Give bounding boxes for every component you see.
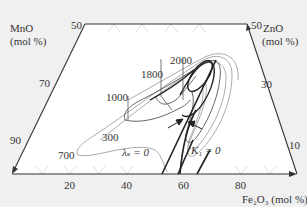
mno-axis-unit: (mol %) [10,35,47,48]
contour-label-2000: 2000 [170,54,193,66]
mno-tick-50: 50 [71,19,83,31]
zno-tick-30: 30 [261,78,273,90]
fe2o3-tick-60: 60 [178,179,190,191]
fe2o3-axis-title: Fe₂O₃ (mol %) [242,193,307,206]
zno-tick-10: 10 [289,139,301,151]
zno-tick-50: 50 [251,19,263,31]
contour-label-700: 700 [58,149,75,161]
lambda-s-label: λₛ = 0 [121,146,149,158]
mno-tick-70: 70 [39,77,51,89]
contour-label-300: 300 [102,131,119,143]
ternary-diagram: MnO (mol %) ZnO (mol %) Fe₂O₃ (mol %) 50… [0,0,307,207]
fe2o3-tick-80: 80 [235,179,247,191]
zno-axis-unit: (mol %) [262,35,299,48]
mno-tick-90: 90 [10,134,22,146]
contour-label-1000: 1000 [106,91,129,103]
contour-label-1800: 1800 [141,68,164,80]
k1-label: K₁ = 0 [190,144,221,156]
diagram-canvas: MnO (mol %) ZnO (mol %) Fe₂O₃ (mol %) 50… [0,0,307,207]
mno-axis-title: MnO [10,22,33,34]
zno-axis-title: ZnO [263,22,283,34]
fe2o3-tick-40: 40 [121,179,133,191]
fe2o3-tick-20: 20 [64,179,76,191]
